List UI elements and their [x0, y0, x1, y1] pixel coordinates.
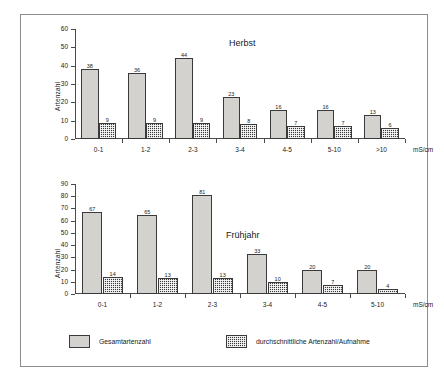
bar-value-label: 9 — [106, 117, 109, 123]
x-category-label-4-5: 4-5 — [282, 146, 291, 153]
y-axis-line-herbst — [75, 29, 76, 139]
bar-total-1-2: 36 — [128, 73, 145, 139]
bar-value-label: 4 — [386, 283, 389, 289]
bar-average-0-1: 14 — [103, 277, 123, 294]
plot-area-fruehjahr: 0102030405060708090 67146513811333102072… — [75, 184, 405, 294]
y-tick-60: 60 — [71, 221, 75, 222]
bar-value-label: 9 — [153, 117, 156, 123]
bar-value-label: 13 — [370, 109, 376, 115]
x-category-label-0-1: 0-1 — [98, 301, 107, 308]
y-tick-label-40: 40 — [61, 241, 68, 248]
legend-label-total: Gesamtartenzahl — [99, 338, 151, 345]
x-tick — [130, 294, 131, 298]
x-tick — [405, 139, 406, 143]
y-tick-60: 60 — [71, 29, 75, 30]
y-axis-line-fruehjahr — [75, 184, 76, 294]
x-category-label-2-3: 2-3 — [208, 301, 217, 308]
x-tick — [122, 139, 123, 143]
bar-value-label: 16 — [275, 104, 281, 110]
bar-value-label: 20 — [364, 264, 370, 270]
legend-swatch-average-icon — [226, 335, 247, 348]
x-tick — [240, 294, 241, 298]
bar-total-4-5: 16 — [270, 110, 287, 139]
bar-average-3-4: 8 — [240, 124, 257, 139]
bar-total-0-1: 38 — [81, 69, 98, 139]
y-tick-30: 30 — [71, 257, 75, 258]
bar-total->10: 13 — [364, 115, 381, 139]
x-category-label-3-4: 3-4 — [263, 301, 272, 308]
legend-entry-total: Gesamtartenzahl — [69, 335, 151, 348]
bar-total-5-10: 16 — [317, 110, 334, 139]
bar-total-2-3: 44 — [175, 58, 192, 139]
y-tick-40: 40 — [71, 66, 75, 67]
bar-value-label: 7 — [341, 120, 344, 126]
bar-value-label: 9 — [200, 117, 203, 123]
x-category-label-1-2: 1-2 — [153, 301, 162, 308]
bar-value-label: 65 — [144, 209, 150, 215]
bar-value-label: 38 — [87, 63, 93, 69]
bar-average-5-10: 4 — [378, 289, 398, 294]
bar-value-label: 23 — [228, 91, 234, 97]
x-tick — [295, 294, 296, 298]
bar-value-label: 14 — [110, 271, 116, 277]
x-category-label->10: >10 — [376, 146, 387, 153]
chart-figure-frame: Herbst Artenzahl 0102030405060 389369449… — [20, 14, 428, 367]
x-tick — [185, 294, 186, 298]
chart-panel-herbst: Herbst Artenzahl 0102030405060 389369449… — [21, 23, 429, 173]
y-tick-20: 20 — [71, 102, 75, 103]
bar-average-4-5: 7 — [287, 126, 304, 139]
x-tick — [169, 139, 170, 143]
y-tick-label-30: 30 — [61, 80, 68, 87]
x-tick — [358, 139, 359, 143]
bar-total-3-4: 23 — [223, 97, 240, 139]
y-tick-10: 10 — [71, 121, 75, 122]
y-tick-label-70: 70 — [61, 204, 68, 211]
y-tick-label-50: 50 — [61, 43, 68, 50]
bar-total-4-5: 20 — [302, 270, 322, 294]
y-tick-label-20: 20 — [61, 98, 68, 105]
y-tick-0: 0 — [71, 294, 75, 295]
bar-average-0-1: 9 — [99, 123, 116, 140]
bar-value-label: 6 — [389, 122, 392, 128]
bar-average->10: 6 — [381, 128, 398, 139]
x-category-label-2-3: 2-3 — [188, 146, 197, 153]
y-tick-90: 90 — [71, 184, 75, 185]
x-tick — [350, 294, 351, 298]
chart-panel-fruehjahr: Frühjahr Artenzahl 0102030405060708090 6… — [21, 178, 429, 328]
bar-value-label: 36 — [134, 67, 140, 73]
bar-average-3-4: 10 — [268, 282, 288, 294]
bar-value-label: 81 — [199, 189, 205, 195]
x-category-label-1-2: 1-2 — [141, 146, 150, 153]
y-tick-10: 10 — [71, 282, 75, 283]
bar-average-5-10: 7 — [334, 126, 351, 139]
x-category-label-5-10: 5-10 — [371, 301, 384, 308]
plot-area-herbst: 0102030405060 389369449238167167136 0-11… — [75, 29, 405, 139]
x-axis-unit-label-fruehjahr: mS/cm — [413, 301, 433, 308]
y-tick-50: 50 — [71, 233, 75, 234]
y-tick-20: 20 — [71, 270, 75, 271]
y-tick-label-10: 10 — [61, 117, 68, 124]
legend-swatch-total-icon — [69, 335, 90, 348]
y-tick-label-0: 0 — [64, 290, 68, 297]
legend-entry-average: durchschnittliche Artenzahl/Aufnahme — [226, 335, 370, 348]
bar-average-2-3: 13 — [213, 278, 233, 294]
x-category-label-4-5: 4-5 — [318, 301, 327, 308]
bar-value-label: 13 — [220, 272, 226, 278]
bar-average-1-2: 13 — [158, 278, 178, 294]
x-tick — [264, 139, 265, 143]
bar-total-2-3: 81 — [192, 195, 212, 294]
y-tick-label-30: 30 — [61, 253, 68, 260]
bar-value-label: 67 — [89, 206, 95, 212]
bar-value-label: 44 — [181, 52, 187, 58]
y-tick-label-50: 50 — [61, 229, 68, 236]
bar-value-label: 7 — [331, 279, 334, 285]
bar-value-label: 8 — [247, 118, 250, 124]
x-tick — [216, 139, 217, 143]
x-axis-unit-label-herbst: mS/cm — [413, 146, 433, 153]
y-tick-label-40: 40 — [61, 62, 68, 69]
x-tick — [311, 139, 312, 143]
bar-value-label: 20 — [309, 264, 315, 270]
y-tick-label-10: 10 — [61, 278, 68, 285]
y-tick-label-60: 60 — [61, 217, 68, 224]
y-tick-0: 0 — [71, 139, 75, 140]
